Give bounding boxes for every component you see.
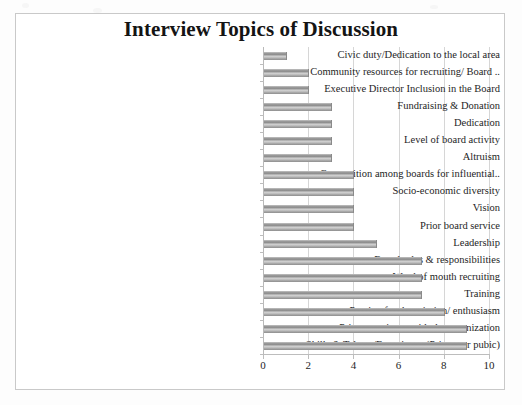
value-tick-label: 0 — [248, 359, 278, 371]
bar[interactable] — [264, 223, 354, 231]
bar[interactable] — [264, 291, 422, 299]
bar-row: Leadership — [16, 235, 504, 252]
bar-row: Fundraising & Donation — [16, 98, 504, 115]
chart-title: Interview Topics of Discussion — [16, 17, 506, 42]
bar[interactable] — [264, 86, 309, 94]
bar[interactable] — [264, 52, 287, 60]
bar[interactable] — [264, 274, 422, 282]
category-label: Civic duty/Dedication to the local area — [272, 47, 504, 64]
scan-speck — [430, 5, 438, 9]
bar[interactable] — [264, 103, 332, 111]
value-tick-label: 4 — [338, 359, 368, 371]
bar[interactable] — [264, 120, 332, 128]
bar-row: Prior board service — [16, 218, 504, 235]
value-tick-label: 8 — [429, 359, 459, 371]
bar[interactable] — [264, 325, 467, 333]
value-tick-label: 10 — [474, 359, 504, 371]
bar-row: Passion for the mission/ enthusiasm — [16, 303, 504, 320]
bar[interactable] — [264, 137, 332, 145]
bar[interactable] — [264, 257, 422, 265]
bar-row: Skills & Talents/Experience (Private or … — [16, 337, 504, 354]
chart-plot-frame: Interview Topics of Discussion Civic dut… — [15, 13, 505, 390]
bar[interactable] — [264, 171, 354, 179]
bar-row: Civic duty/Dedication to the local area — [16, 47, 504, 64]
bar-row: Competition among boards for influential… — [16, 166, 504, 183]
bar[interactable] — [264, 188, 354, 196]
bar-row: Prior experience with the organization — [16, 320, 504, 337]
bar-row: Dedication — [16, 115, 504, 132]
bar[interactable] — [264, 308, 445, 316]
bar-row: Board roles & responsibilities — [16, 252, 504, 269]
bar[interactable] — [264, 69, 309, 77]
scan-speck — [22, 3, 29, 8]
category-axis-line — [263, 354, 490, 355]
bar-row: Community resources for recruiting/ Boar… — [16, 64, 504, 81]
bar-row: Word of mouth recruiting — [16, 269, 504, 286]
bar-row: Executive Director Inclusion in the Boar… — [16, 81, 504, 98]
chart-screenshot: Interview Topics of Discussion Civic dut… — [0, 0, 522, 405]
bar[interactable] — [264, 342, 467, 350]
bar-row: Training — [16, 286, 504, 303]
bar-row: Socio-economic diversity — [16, 183, 504, 200]
value-tick-label: 2 — [293, 359, 323, 371]
value-tick-label: 6 — [384, 359, 414, 371]
bar-row: Altruism — [16, 149, 504, 166]
bar[interactable] — [264, 240, 377, 248]
bar-row: Vision — [16, 200, 504, 217]
bar[interactable] — [264, 205, 354, 213]
bar[interactable] — [264, 154, 332, 162]
bar-row: Level of board activity — [16, 132, 504, 149]
